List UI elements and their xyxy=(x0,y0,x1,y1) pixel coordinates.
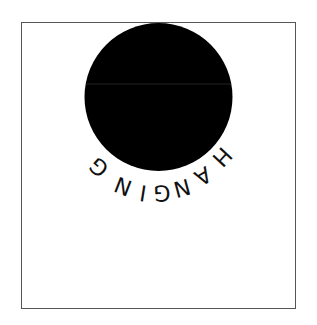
caption-letter-6: N xyxy=(111,171,135,200)
hanging-illustration: H A N G I N G xyxy=(0,0,317,325)
caption-letter-7: G xyxy=(84,152,113,182)
caption-letter-2: A xyxy=(190,161,216,190)
caption-letter-5: I xyxy=(138,180,148,206)
caption-letter-4: G xyxy=(153,180,171,206)
black-circle xyxy=(85,23,233,171)
caption-letter-3: N xyxy=(171,174,193,202)
